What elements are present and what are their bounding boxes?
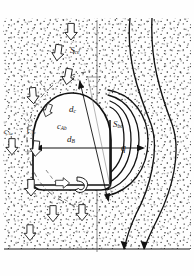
diagram-svg — [0, 0, 194, 276]
label-c-ae: cAe — [4, 128, 13, 137]
label-q: q — [121, 144, 126, 154]
label-s-be: Sbe — [113, 120, 123, 130]
label-s-ce: Sce — [70, 46, 79, 56]
label-d-c: dc — [69, 105, 76, 115]
label-c-ab: cAb — [57, 122, 67, 131]
label-c-ac: cAc — [27, 127, 36, 136]
label-d-b: dB — [67, 135, 75, 145]
figure-canvas: Sce dc cAb dB cAe cAc Sbe q — [0, 0, 194, 276]
